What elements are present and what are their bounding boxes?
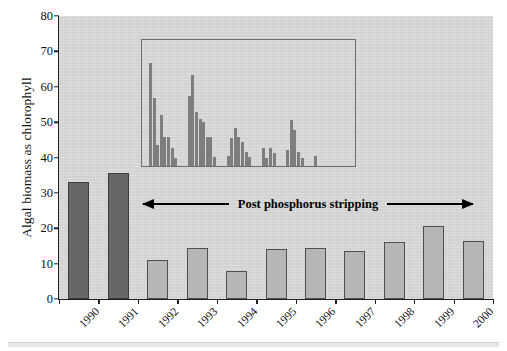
x-tick-label: 1991: [116, 305, 141, 330]
inset-bar-1992: [149, 63, 152, 166]
inset-bar-1995: [269, 148, 272, 167]
inset-bar-1994: [237, 137, 240, 166]
inset-bar-1994: [230, 138, 233, 166]
bar-2000: [463, 241, 484, 299]
inset-bar-1993: [195, 112, 198, 166]
inset-bar-1993: [191, 75, 194, 166]
inset-bar-1994: [227, 156, 230, 166]
x-tick-mark: [59, 299, 60, 304]
bar-1995: [266, 249, 287, 299]
bar-1994: [226, 271, 247, 299]
bottom-divider: [8, 342, 499, 347]
x-tick-label: 1998: [392, 305, 417, 330]
x-tick-mark: [98, 299, 99, 304]
x-tick-label: 1999: [432, 305, 457, 330]
inset-chart: [141, 39, 356, 167]
bar-1992: [147, 260, 168, 299]
inset-bar-1993: [206, 137, 209, 166]
inset-bar-1995: [273, 153, 276, 166]
y-tick-label: 30: [25, 185, 59, 200]
x-tick-mark: [256, 299, 257, 304]
inset-bar-1994: [234, 128, 237, 166]
bar-1998: [384, 242, 405, 299]
x-tick-mark: [296, 299, 297, 304]
bar-1991: [108, 173, 129, 299]
x-tick-label: 1994: [234, 305, 259, 330]
inset-bar-1992: [171, 148, 174, 167]
x-tick-label: 2000: [471, 305, 496, 330]
inset-bar-1996: [293, 130, 296, 166]
x-tick-mark: [493, 299, 494, 304]
x-tick-mark: [138, 299, 139, 304]
x-tick-label: 1990: [76, 305, 101, 330]
x-tick-mark: [217, 299, 218, 304]
bar-1996: [305, 248, 326, 299]
x-tick-label: 1996: [313, 305, 338, 330]
inset-bar-1992: [156, 145, 159, 166]
arrow-right-icon: [387, 203, 473, 205]
arrow-left-icon: [143, 203, 229, 205]
inset-bar-1996: [290, 120, 293, 166]
inset-bar-1992: [153, 98, 156, 166]
bar-1997: [344, 251, 365, 299]
x-tick-label: 1995: [274, 305, 299, 330]
x-tick-mark: [454, 299, 455, 304]
inset-bar-1992: [174, 158, 177, 166]
bar-1999: [423, 226, 444, 299]
x-tick-label: 1997: [353, 305, 378, 330]
x-tick-mark: [177, 299, 178, 304]
x-tick-mark: [335, 299, 336, 304]
inset-bar-1996: [286, 150, 289, 166]
inset-bar-1997: [314, 156, 317, 166]
inset-bar-1994: [248, 157, 251, 166]
y-tick-label: 0: [25, 292, 59, 307]
y-tick-label: 70: [25, 44, 59, 59]
y-tick-label: 50: [25, 115, 59, 130]
inset-bar-1994: [241, 142, 244, 166]
bar-1990: [68, 182, 89, 299]
inset-bar-1996: [301, 158, 304, 166]
plot-area: Algal biomass as chlorophyll 01020304050…: [58, 16, 493, 300]
figure-container: Algal biomass as chlorophyll 01020304050…: [0, 0, 507, 351]
inset-bar-1993: [199, 119, 202, 166]
inset-bar-1993: [202, 122, 205, 167]
inset-bar-1993: [213, 157, 216, 166]
x-tick-label: 1993: [195, 305, 220, 330]
post-phosphorus-stripping-annotation: Post phosphorus stripping: [143, 192, 473, 216]
y-tick-label: 40: [25, 150, 59, 165]
inset-bar-1994: [245, 152, 248, 166]
annotation-label: Post phosphorus stripping: [229, 197, 387, 212]
y-tick-label: 60: [25, 79, 59, 94]
inset-bar-1992: [163, 137, 166, 166]
inset-bar-1992: [160, 115, 163, 166]
inset-bar-1993: [209, 137, 212, 166]
inset-bar-1995: [265, 158, 268, 166]
inset-bar-1992: [167, 137, 170, 166]
y-tick-label: 80: [25, 9, 59, 24]
x-tick-label: 1992: [155, 305, 180, 330]
inset-bar-1993: [188, 96, 191, 167]
inset-bar-1995: [262, 148, 265, 167]
inset-bar-1996: [297, 152, 300, 166]
y-tick-label: 20: [25, 221, 59, 236]
x-tick-mark: [414, 299, 415, 304]
x-tick-mark: [375, 299, 376, 304]
bar-1993: [187, 248, 208, 299]
y-tick-label: 10: [25, 256, 59, 271]
